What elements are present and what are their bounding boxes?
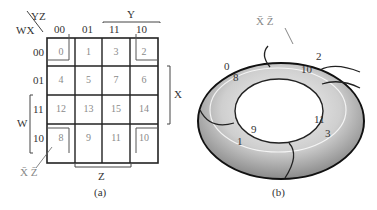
torus-num: 3: [325, 127, 331, 139]
torus-group-label: X̄ Z̄: [256, 15, 273, 27]
torus-num: 9: [251, 123, 257, 135]
caption-b: (b): [272, 186, 285, 198]
torus-num: 10: [301, 63, 312, 75]
torus-num: 8: [233, 71, 239, 83]
torus-num: 1: [237, 135, 243, 147]
torus-num: 2: [316, 50, 322, 62]
torus-drawing: [0, 0, 377, 210]
torus-num: 11: [314, 113, 325, 125]
torus-num: 0: [224, 60, 230, 72]
